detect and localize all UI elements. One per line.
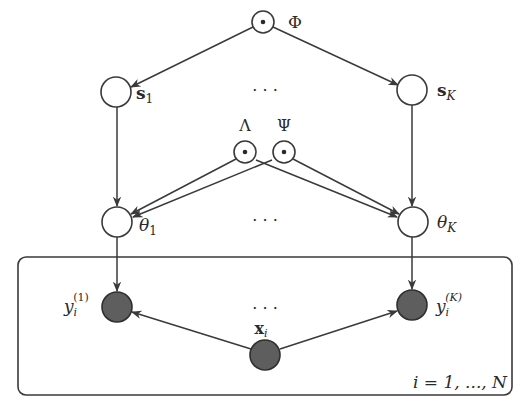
label-lambda: Λ [238,116,251,135]
ellipsis-y: · · · [252,299,277,318]
node-y1 [102,292,132,322]
fixed-dot-icon [243,150,248,155]
edge-phi-s1 [131,27,253,87]
label-s1: s1 [136,83,153,106]
edge-psi-theta1 [133,160,272,217]
node-xi [250,340,280,370]
fixed-dot-icon [261,20,266,25]
plate-label: i = 1, ..., N [413,372,508,392]
edge-lambda-theta1 [131,159,236,214]
edge-phi-sK [273,27,398,85]
node-thetaK [398,207,428,237]
node-s1 [101,77,131,107]
label-psi: Ψ [277,116,291,135]
label-xi: xi [254,319,267,340]
edge-xi-y1 [132,312,251,349]
ellipsis-theta: · · · [252,211,277,230]
node-lambda [234,141,256,163]
ellipsis-s: · · · [252,81,277,100]
label-yK: yi(K) [435,291,462,319]
node-theta1 [102,207,132,237]
label-phi: Φ [288,12,302,32]
label-sK: sK [437,80,457,103]
label-thetaK: θK [437,212,457,235]
node-psi [273,141,295,163]
label-theta1: θ1 [139,215,157,238]
label-y1: yi(1) [63,291,89,319]
edge-lambda-thetaK [256,160,397,217]
node-yK [397,290,427,320]
node-phi [252,11,274,33]
node-sK [397,75,427,105]
edge-psi-thetaK [293,159,399,214]
fixed-dot-icon [282,150,287,155]
edge-xi-yK [280,311,397,349]
graphical-model-diagram: i = 1, ..., N Φ s1 sK · · · · · · · · · … [0,0,531,419]
